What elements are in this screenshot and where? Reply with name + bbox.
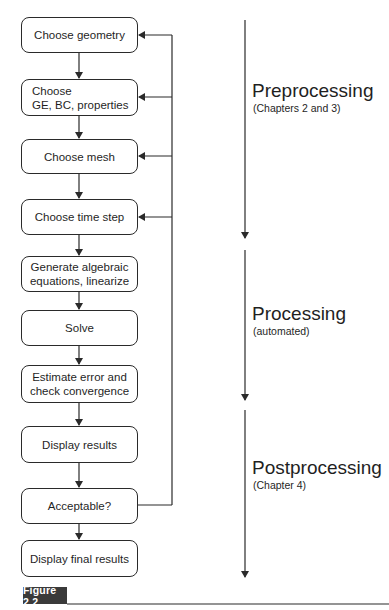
step-display-final-results: Display final results [21, 540, 138, 577]
step-label: Choose mesh [44, 150, 115, 164]
step-choose-mesh: Choose mesh [21, 139, 138, 174]
phase-preprocessing-subtitle: (Chapters 2 and 3) [253, 102, 341, 114]
step-label: Display results [42, 438, 117, 452]
step-estimate-error: Estimate error and check convergence [21, 365, 138, 403]
phase-postprocessing-subtitle: (Chapter 4) [253, 479, 306, 491]
step-label: Solve [65, 321, 94, 335]
step-choose-ge-bc-properties: Choose GE, BC, properties [21, 79, 138, 116]
step-label: Estimate error and check convergence [30, 370, 129, 398]
figure-label-badge: Figure 2.2 [23, 587, 67, 604]
step-label: Display final results [30, 552, 129, 566]
step-label: Choose time step [35, 210, 125, 224]
step-label: Choose GE, BC, properties [32, 84, 129, 112]
step-generate-algebraic-equations: Generate algebraic equations, linearize [21, 256, 138, 292]
step-choose-geometry: Choose geometry [21, 17, 138, 53]
step-choose-time-step: Choose time step [21, 199, 138, 235]
phase-preprocessing-title: Preprocessing [252, 80, 373, 102]
step-label: Acceptable? [48, 499, 111, 513]
step-display-results: Display results [21, 426, 138, 463]
phase-postprocessing-title: Postprocessing [252, 457, 382, 479]
phase-processing-title: Processing [252, 303, 346, 325]
step-solve: Solve [21, 310, 138, 346]
step-label: Generate algebraic equations, linearize [30, 260, 129, 288]
step-acceptable-decision: Acceptable? [21, 488, 138, 524]
step-label: Choose geometry [34, 28, 125, 42]
phase-processing-subtitle: (automated) [253, 325, 310, 337]
